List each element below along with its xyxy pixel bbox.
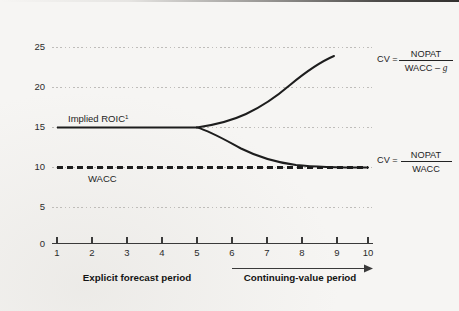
formula-growth-denominator-italic: g	[443, 63, 448, 73]
formula-perpetuity-denominator: WACC	[412, 164, 440, 174]
implied-roic-label: Implied ROIC1	[68, 113, 129, 124]
y-tick-label-0: 0	[40, 238, 45, 249]
x-tick-label-4: 4	[159, 247, 164, 258]
formula-perpetuity-lhs: CV =	[377, 155, 398, 165]
x-tick-label-1: 1	[54, 247, 59, 258]
period-captions: Explicit forecast period Continuing-valu…	[83, 272, 357, 283]
y-axis-labels: 25 20 15 10 5 0	[34, 41, 45, 249]
y-tick-label-10: 10	[34, 161, 45, 172]
explicit-forecast-period-label: Explicit forecast period	[83, 272, 191, 283]
roic-continuing-value-chart: 25 20 15 10 5 0 1 2	[0, 0, 459, 311]
x-axis-labels: 1 2 3 4 5 6 7 8 9 10	[54, 247, 373, 258]
formula-perpetuity-numerator: NOPAT	[411, 150, 442, 160]
x-tick-label-10: 10	[363, 247, 374, 258]
x-tick-label-3: 3	[124, 247, 129, 258]
y-tick-label-15: 15	[34, 121, 45, 132]
formula-growth-denominator: WACC – g	[405, 63, 448, 73]
figure-root: 25 20 15 10 5 0 1 2	[0, 0, 459, 311]
wacc-label: WACC	[88, 173, 117, 184]
x-tick-label-5: 5	[194, 247, 199, 258]
x-axis: 1 2 3 4 5 6 7 8 9 10	[52, 237, 373, 258]
implied-roic-label-text: Implied ROIC	[68, 113, 125, 124]
formula-growth-lhs: CV =	[377, 54, 398, 64]
y-tick-label-5: 5	[40, 201, 45, 212]
y-tick-label-20: 20	[34, 81, 45, 92]
series-annotations: Implied ROIC1 WACC	[68, 113, 129, 184]
formula-growth-denominator-main: WACC –	[405, 63, 443, 73]
x-tick-label-6: 6	[229, 247, 234, 258]
formula-cv-with-growth: CV = NOPAT WACC – g	[377, 49, 453, 73]
continuing-value-period-label: Continuing-value period	[244, 272, 357, 283]
y-tick-label-25: 25	[34, 41, 45, 52]
x-tick-label-9: 9	[334, 247, 339, 258]
cv-perpetuity-curve	[197, 127, 368, 167]
formula-cv-perpetuity: CV = NOPAT WACC	[377, 150, 452, 174]
implied-roic-footnote-mark: 1	[125, 113, 129, 120]
x-tick-label-8: 8	[299, 247, 304, 258]
cv-with-growth-curve	[197, 56, 334, 127]
x-tick-label-7: 7	[264, 247, 269, 258]
continuing-value-arrow-head	[364, 265, 373, 273]
x-tick-label-2: 2	[89, 247, 94, 258]
formula-growth-numerator: NOPAT	[411, 49, 442, 59]
